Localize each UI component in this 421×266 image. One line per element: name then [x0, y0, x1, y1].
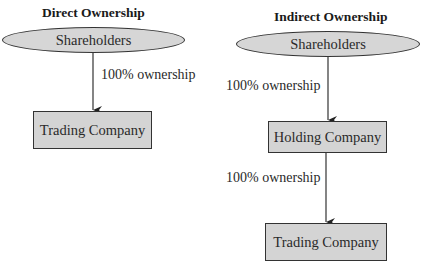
indirect-edge-label-1: 100% ownership [226, 78, 321, 94]
indirect-trading-company-node: Trading Company [265, 223, 387, 261]
direct-ownership-title: Direct Ownership [42, 5, 145, 21]
direct-shareholders-node: Shareholders [2, 27, 185, 53]
holding-company-node: Holding Company [268, 121, 387, 153]
direct-trading-company-node: Trading Company [33, 111, 152, 149]
indirect-ownership-title: Indirect Ownership [274, 9, 387, 25]
indirect-shareholders-node: Shareholders [236, 31, 420, 57]
indirect-edge-label-2: 100% ownership [226, 170, 321, 186]
direct-edge-label: 100% ownership [101, 67, 196, 83]
